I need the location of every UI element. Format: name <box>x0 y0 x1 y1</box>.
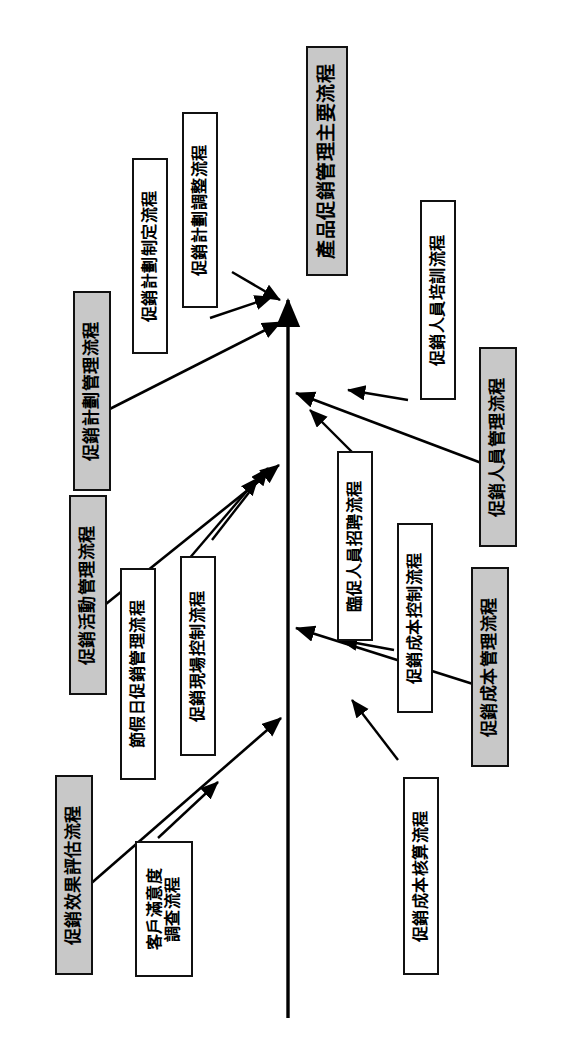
subprocess-label-satisfaction-line1: 客戶滿意度 <box>146 868 164 951</box>
category-label-plan: 促銷計劃管理流程 <box>82 321 101 461</box>
subprocess-label-recruit: 臨促人員招聘流程 <box>346 480 364 612</box>
subprocess-label-satisfaction-line2: 調查流程 <box>164 876 182 942</box>
subprocess-box-onsite[interactable]: 促銷現場控制流程 <box>180 556 216 756</box>
subprocess-label-cost-account: 促銷成本核算流程 <box>412 810 430 942</box>
category-label-cost: 促銷成本管理流程 <box>480 597 499 737</box>
category-label-activity: 促銷活動管理流程 <box>78 525 97 665</box>
feeder-holiday <box>188 478 258 560</box>
feeder-recruit <box>310 410 352 452</box>
category-box-activity[interactable]: 促銷活動管理流程 <box>69 495 107 695</box>
feeder-plan-make <box>210 297 272 318</box>
subprocess-box-plan-adjust[interactable]: 促銷計劃調整流程 <box>182 112 218 308</box>
feeder-cost-account <box>352 700 398 760</box>
category-box-staff[interactable]: 促銷人員管理流程 <box>479 347 517 547</box>
rib-plan <box>92 322 281 418</box>
rib-staff <box>296 393 500 470</box>
rib-cost <box>296 628 492 690</box>
subprocess-label-cost-control: 促銷成本控制流程 <box>406 552 424 684</box>
subprocess-box-cost-control[interactable]: 促銷成本控制流程 <box>397 523 433 713</box>
subprocess-label-holiday: 節假日促銷管理流程 <box>129 600 147 749</box>
category-box-effect[interactable]: 促銷效果評估流程 <box>55 775 93 975</box>
subprocess-label-training: 促銷人員培訓流程 <box>429 234 447 366</box>
subprocess-box-satisfaction[interactable]: 客戶滿意度 調查流程 <box>135 841 193 977</box>
subprocess-box-recruit[interactable]: 臨促人員招聘流程 <box>337 451 373 641</box>
feeder-training <box>348 390 408 400</box>
diagram-title: 產品促銷管理主要流程 <box>306 46 348 276</box>
category-box-plan[interactable]: 促銷計劃管理流程 <box>73 291 111 491</box>
subprocess-label-plan-adjust: 促銷計劃調整流程 <box>191 144 209 276</box>
feeder-cost-control <box>340 640 394 650</box>
feeder-onsite <box>212 468 268 540</box>
diagram-title-text: 產品促銷管理主要流程 <box>316 64 337 259</box>
subprocess-box-holiday[interactable]: 節假日促銷管理流程 <box>120 568 156 780</box>
subprocess-box-training[interactable]: 促銷人員培訓流程 <box>420 200 456 400</box>
subprocess-box-cost-account[interactable]: 促銷成本核算流程 <box>403 777 439 975</box>
category-label-staff: 促銷人員管理流程 <box>488 377 507 517</box>
feeder-plan-adjust <box>232 272 280 300</box>
subprocess-label-onsite: 促銷現場控制流程 <box>189 590 207 722</box>
category-label-effect: 促銷效果評估流程 <box>64 805 83 945</box>
category-box-cost[interactable]: 促銷成本管理流程 <box>471 567 509 767</box>
diagram-canvas: 產品促銷管理主要流程 促銷計劃管理流程 促銷活動管理流程 促銷效果評估流程 促銷… <box>0 0 570 1045</box>
feeder-satisfaction <box>158 782 218 838</box>
subprocess-label-plan-make: 促銷計劃制定流程 <box>141 190 159 322</box>
subprocess-box-plan-make[interactable]: 促銷計劃制定流程 <box>132 158 168 354</box>
